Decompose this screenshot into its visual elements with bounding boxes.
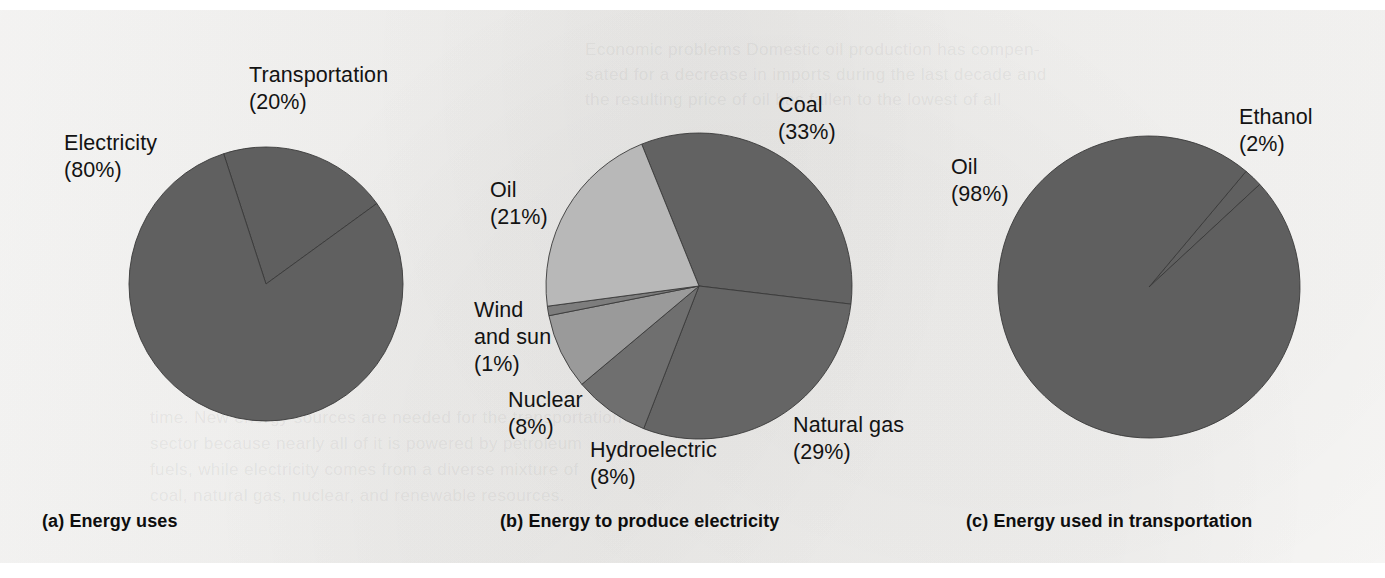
pie-label-line: (80%) [64, 157, 157, 184]
pie-label-line: Oil [951, 154, 1009, 181]
pie-chart-energy-uses [123, 141, 409, 427]
pie-label: Windand sun(1%) [474, 297, 551, 378]
pie-label: Nuclear(8%) [508, 387, 583, 441]
pie-label-line: (8%) [508, 414, 583, 441]
pie-label-line: (29%) [793, 439, 904, 466]
bleedthrough-line: Economic problems Domestic oil productio… [585, 40, 1040, 60]
pie-label-line: Ethanol [1239, 104, 1313, 131]
pie-label-line: (20%) [249, 89, 388, 116]
pie-label-line: Natural gas [793, 412, 904, 439]
pie-label-line: (1%) [474, 351, 551, 378]
pie-label: Hydroelectric(8%) [590, 437, 717, 491]
pie-svg-energy-uses [123, 141, 409, 427]
pie-label-line: and sun [474, 324, 551, 351]
pie-label-line: Nuclear [508, 387, 583, 414]
chart-caption-energy-to-produce-electricity: (b) Energy to produce electricity [500, 511, 779, 532]
pie-label-line: (33%) [778, 119, 836, 146]
bleedthrough-line: fuels, while electricity comes from a di… [150, 460, 579, 480]
pie-label-line: (2%) [1239, 131, 1313, 158]
pie-label: Transportation(20%) [249, 62, 388, 116]
pie-chart-energy-used-in-transportation [992, 130, 1306, 444]
pie-label-line: Electricity [64, 130, 157, 157]
chart-caption-energy-used-in-transportation: (c) Energy used in transportation [966, 511, 1252, 532]
pie-label: Oil(21%) [490, 177, 548, 231]
bleedthrough-line: sated for a decrease in imports during t… [585, 65, 1047, 85]
scanned-page-background: Economic problems Domestic oil productio… [0, 10, 1385, 563]
pie-svg-energy-to-produce-electricity [540, 127, 858, 445]
pie-label: Electricity(80%) [64, 130, 157, 184]
pie-label: Oil(98%) [951, 154, 1009, 208]
pie-label: Natural gas(29%) [793, 412, 904, 466]
pie-label-line: Transportation [249, 62, 388, 89]
pie-label-line: Hydroelectric [590, 437, 717, 464]
pie-label-line: (21%) [490, 204, 548, 231]
pie-label-line: Oil [490, 177, 548, 204]
pie-label-line: (8%) [590, 464, 717, 491]
pie-svg-energy-used-in-transportation [992, 130, 1306, 444]
pie-label-line: Coal [778, 92, 836, 119]
pie-label: Ethanol(2%) [1239, 104, 1313, 158]
pie-label-line: Wind [474, 297, 551, 324]
pie-chart-energy-to-produce-electricity [540, 127, 858, 445]
pie-label-line: (98%) [951, 181, 1009, 208]
bleedthrough-line: coal, natural gas, nuclear, and renewabl… [150, 486, 565, 506]
energy-pie-figure: Economic problems Domestic oil productio… [0, 0, 1385, 578]
pie-label: Coal(33%) [778, 92, 836, 146]
chart-caption-energy-uses: (a) Energy uses [42, 511, 178, 532]
